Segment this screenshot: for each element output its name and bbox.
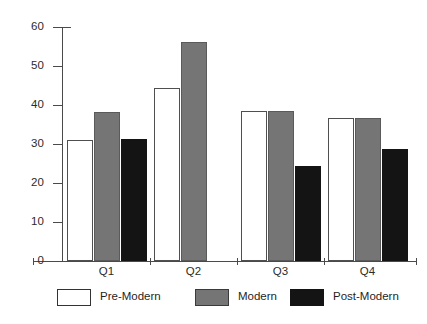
chart-legend: Pre-ModernModernPost-Modern: [0, 287, 427, 311]
legend-item-post[interactable]: Post-Modern: [290, 287, 399, 307]
bar-q2-mod: [181, 42, 207, 261]
bar-q2-pre: [154, 88, 180, 261]
x-axis-end-cap: [416, 258, 417, 265]
bar-q1-post: [121, 139, 147, 261]
legend-swatch-icon: [195, 289, 229, 306]
bar-q4-pre: [328, 118, 354, 261]
x-axis-tick-label: Q4: [338, 266, 398, 278]
y-axis-tick-label: 0: [4, 255, 44, 267]
legend-label: Pre-Modern: [100, 291, 161, 303]
y-axis-tick-label: 60: [4, 21, 44, 33]
y-axis-tick: [53, 183, 62, 184]
legend-label: Post-Modern: [333, 291, 399, 303]
x-axis-tick-label: Q1: [77, 266, 137, 278]
y-axis-tick-label: 50: [4, 60, 44, 72]
legend-label: Modern: [238, 291, 277, 303]
y-axis-tick: [53, 144, 62, 145]
x-axis-start-cap: [33, 258, 34, 265]
legend-swatch-icon: [57, 289, 91, 306]
legend-swatch-icon: [290, 289, 324, 306]
y-axis-tick: [53, 261, 62, 262]
bar-q1-pre: [67, 140, 93, 261]
legend-item-mod[interactable]: Modern: [195, 287, 277, 307]
x-axis-tick-label: Q3: [251, 266, 311, 278]
bar-q1-mod: [94, 112, 120, 261]
bar-q4-post: [382, 149, 408, 261]
y-axis-tick: [53, 27, 62, 28]
bar-q4-mod: [355, 118, 381, 261]
bar-q3-pre: [241, 111, 267, 261]
bar-q3-mod: [268, 111, 294, 261]
y-axis-tick-label: 30: [4, 138, 44, 150]
plot-area: [63, 27, 411, 261]
y-axis-tick-label: 10: [4, 216, 44, 228]
bar-chart: 0102030405060 Q1Q2Q3Q4 Pre-ModernModernP…: [0, 0, 427, 324]
y-axis-tick: [53, 105, 62, 106]
y-axis-tick: [53, 222, 62, 223]
y-axis-tick-label: 20: [4, 177, 44, 189]
y-axis-tick: [53, 66, 62, 67]
x-axis-tick-label: Q2: [164, 266, 224, 278]
y-axis-tick-label: 40: [4, 99, 44, 111]
x-axis-line: [33, 261, 416, 262]
legend-item-pre[interactable]: Pre-Modern: [57, 287, 161, 307]
bar-q3-post: [295, 166, 321, 261]
